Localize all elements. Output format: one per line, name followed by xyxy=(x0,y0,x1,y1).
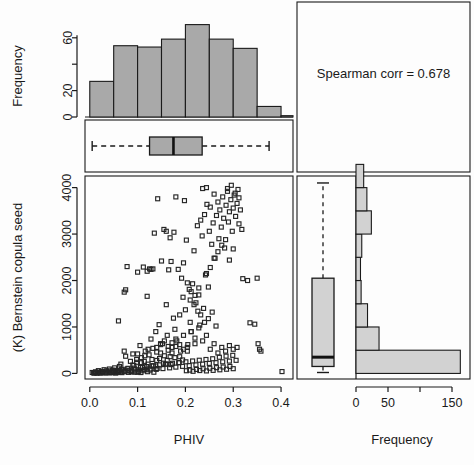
scatter-xtick-label: 0.1 xyxy=(129,396,146,410)
figure-container: Spearman corr = 0.67802060Frequency01000… xyxy=(0,0,474,465)
right-hist-bar xyxy=(356,281,361,304)
top-hist-ytick-label: 60 xyxy=(61,31,75,45)
top-hist-bar xyxy=(138,47,162,117)
top-hist-bar xyxy=(233,48,257,117)
right-hist-xtick-label: 0 xyxy=(353,396,360,410)
scatter-ytick-label: 4000 xyxy=(60,174,74,202)
top-box-box xyxy=(150,137,203,155)
scatter-xlabel: PHIV xyxy=(174,432,205,447)
right-hist-xlabel: Frequency xyxy=(371,432,433,447)
right-hist-bar xyxy=(356,164,364,187)
scatter-ytick-label: 3000 xyxy=(60,220,74,248)
scatter-ylabel: (K) Bernstein copula seed xyxy=(10,203,25,353)
scatter-xtick-label: 0.2 xyxy=(177,396,194,410)
top-hist-ytick-label: 20 xyxy=(61,84,75,98)
right-box-box xyxy=(312,278,334,366)
scatter-xtick-label: 0.4 xyxy=(272,396,289,410)
scatter-xtick-label: 0.0 xyxy=(81,396,98,410)
right-hist-bar xyxy=(356,350,460,373)
right-hist-bar xyxy=(356,234,362,257)
top-hist-bar xyxy=(185,25,209,117)
top-hist-ylabel: Frequency xyxy=(10,45,25,107)
scatter-ytick-label: 2000 xyxy=(60,267,74,295)
spearman-corr-annotation: Spearman corr = 0.678 xyxy=(317,66,450,81)
right-hist-xtick-label: 150 xyxy=(442,396,463,410)
right-hist-xtick-label: 50 xyxy=(381,396,395,410)
top-hist-bar xyxy=(257,106,281,117)
scatter-ytick-label: 1000 xyxy=(60,313,74,341)
right-hist-bar xyxy=(356,327,379,350)
top-hist-bar xyxy=(162,39,186,117)
multipanel-scatter-histogram-figure: Spearman corr = 0.67802060Frequency01000… xyxy=(0,0,474,465)
right-hist-bar xyxy=(356,257,360,280)
top-hist-bar xyxy=(281,116,293,117)
right-hist-bar xyxy=(356,188,367,211)
scatter-xtick-label: 0.3 xyxy=(225,396,242,410)
top-hist-bar xyxy=(90,81,114,117)
top-hist-bar xyxy=(114,46,138,117)
scatter-ytick-label: 0 xyxy=(60,370,74,377)
right-hist-bar xyxy=(356,304,368,327)
right-hist-bar xyxy=(356,211,371,234)
top-hist-ytick-label: 0 xyxy=(61,113,75,120)
top-hist-bar xyxy=(209,39,233,117)
